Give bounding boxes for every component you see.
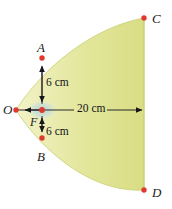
point-A [39,55,44,60]
label-point-F: F [30,116,37,128]
label-dimension-upper-6cm: 6 cm [46,77,69,89]
label-dimension-lower-6cm: 6 cm [46,126,69,138]
geometry-figure: A B C D O F 6 cm 6 cm 20 cm [0,0,172,209]
label-dimension-axis-20cm: 20 cm [77,103,105,115]
point-O [13,107,18,112]
point-F [39,107,45,113]
point-D [141,187,146,192]
label-point-D: D [152,186,161,199]
label-point-A: A [37,41,45,54]
point-C [141,15,146,20]
label-point-O: O [3,103,12,116]
point-B [39,135,44,140]
label-point-C: C [152,12,161,25]
label-point-B: B [37,150,45,163]
